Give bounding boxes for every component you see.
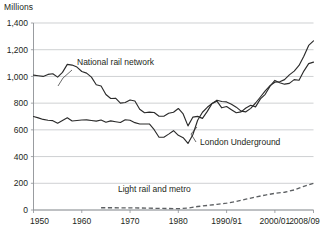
annotation-leader-london-underground [191, 127, 197, 142]
y-axis-tick-label: 0 [23, 205, 28, 215]
x-axis-tick-label: 1950 [30, 216, 49, 226]
y-axis-tick-label: 200 [14, 178, 28, 188]
x-axis-tick-label: 2008/09 [289, 216, 320, 226]
x-axis-tick-label: 1980 [169, 216, 188, 226]
annotation-label: London Underground [200, 137, 281, 147]
annotation-label: Light rail and metro [118, 184, 191, 194]
series-line-national-rail-network [34, 41, 314, 126]
line-chart-plot: 02004006008001,0001,2001,400195019601970… [0, 0, 329, 243]
y-axis-tick-label: 1,000 [7, 72, 29, 82]
y-axis-tick-label: 600 [14, 125, 28, 135]
x-axis-tick-label: 2000/01 [260, 216, 291, 226]
x-axis-tick-label: 1960 [72, 216, 91, 226]
y-axis-tick-label: 1,200 [7, 45, 29, 55]
y-axis-tick-label: 400 [14, 152, 28, 162]
y-axis-tick-label: 800 [14, 98, 28, 108]
y-axis-tick-label: 1,400 [7, 18, 29, 28]
x-axis-tick-label: 1970 [121, 216, 140, 226]
annotation-leader-national-rail [58, 70, 72, 86]
x-axis-tick-label: 1990/91 [211, 216, 242, 226]
annotation-label: National rail network [77, 57, 155, 67]
chart-container: Millions 02004006008001,0001,2001,400195… [0, 0, 329, 243]
